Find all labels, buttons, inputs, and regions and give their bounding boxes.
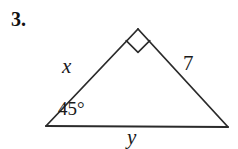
triangle-side-base bbox=[46, 126, 228, 127]
side-label-7: 7 bbox=[183, 53, 194, 74]
right-angle-icon bbox=[126, 41, 150, 53]
side-label-y: y bbox=[127, 127, 136, 148]
side-label-x: x bbox=[62, 56, 71, 77]
triangle-figure bbox=[0, 0, 238, 149]
triangle-side-right bbox=[138, 29, 228, 127]
angle-label-45: 45° bbox=[58, 99, 85, 118]
figure-canvas: 3. x 7 45° y bbox=[0, 0, 238, 149]
